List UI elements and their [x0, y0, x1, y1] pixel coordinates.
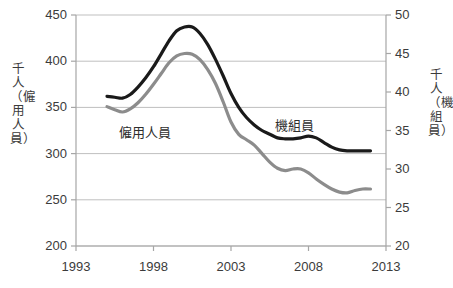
x-tick-label: 2013	[356, 260, 416, 273]
y-tick-label-right: 35	[395, 124, 409, 137]
y-tick-label-left: 200	[45, 239, 67, 252]
y-axis-left-title: 千人（僱用人員）	[10, 62, 27, 146]
y-tick-label-right: 20	[395, 239, 409, 252]
x-tick-label: 2008	[279, 260, 339, 273]
y-tick-label-right: 30	[395, 162, 409, 175]
y-tick-label-left: 350	[45, 100, 67, 113]
y-tick-label-left: 450	[45, 8, 67, 21]
y-tick-label-right: 40	[395, 85, 409, 98]
x-tick-label: 1993	[46, 260, 106, 273]
y-tick-label-right: 25	[395, 201, 409, 214]
y-tick-label-left: 250	[45, 193, 67, 206]
y-tick-label-left: 400	[45, 54, 67, 67]
series-label-crew: 機組員	[275, 119, 314, 132]
x-tick-label: 1998	[124, 260, 184, 273]
y-tick-label-right: 45	[395, 47, 409, 60]
x-tick-label: 2003	[201, 260, 261, 273]
series-label-employed: 僱用人員	[119, 126, 171, 139]
chart-plot-area	[0, 0, 453, 288]
y-tick-label-right: 50	[395, 8, 409, 21]
y-tick-label-left: 300	[45, 147, 67, 160]
chart-figure: 200250300350400450 20253035404550 199319…	[0, 0, 453, 288]
data-series-group	[107, 26, 371, 193]
y-axis-right-title: 千人（機組員）	[428, 68, 445, 138]
